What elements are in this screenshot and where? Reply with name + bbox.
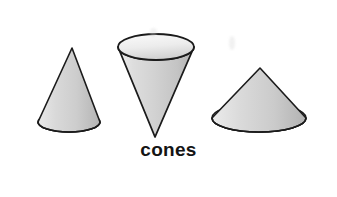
scan-smudge-right-icon bbox=[229, 36, 235, 50]
cone-right bbox=[212, 68, 306, 132]
cone-left bbox=[38, 48, 100, 132]
cone-right-body bbox=[212, 68, 306, 132]
figure-caption: cones bbox=[0, 139, 337, 161]
cone-middle-top-ellipse bbox=[118, 34, 194, 60]
figure-root: cones bbox=[0, 0, 337, 197]
cone-middle bbox=[118, 34, 194, 137]
cone-left-body bbox=[38, 48, 100, 132]
cones-illustration bbox=[0, 0, 337, 197]
scan-smudge-upper-icon bbox=[150, 28, 157, 37]
